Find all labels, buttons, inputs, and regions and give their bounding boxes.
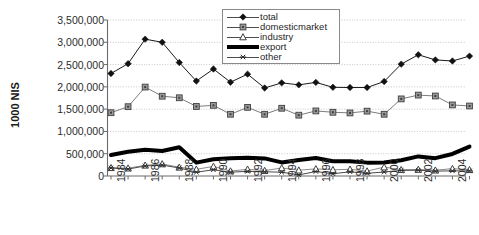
data-point-marker-square-center [178,97,180,99]
data-point-marker-square-center [110,112,112,114]
data-point-marker-diamond [279,80,285,86]
legend-key-thickline-icon [226,42,260,52]
data-point-marker-square-center [298,114,300,116]
data-point-marker-diamond [296,82,302,88]
series-other [108,163,473,177]
series-line-export [111,147,470,163]
legend-marker-asterisk-icon [236,52,250,62]
data-point-marker-diamond [449,58,455,64]
legend-key-diamond-icon [226,12,260,22]
data-point-marker-diamond [364,84,370,90]
data-point-marker-diamond [108,70,114,76]
data-point-marker-diamond [415,52,421,58]
data-point-marker-square-center [451,104,453,106]
data-point-marker-square-center [144,86,146,88]
legend-marker-square-icon [236,22,250,32]
legend-marker-diamond-icon [236,12,250,22]
data-point-marker-diamond [330,84,336,90]
series-line-domesticmarket [111,87,470,115]
series-export [111,147,470,163]
chart-screenshot: 1000 NIS 3,500,0003,000,0002,500,0002,00… [0,0,479,235]
series-domesticmarket [108,84,472,118]
data-point-marker-square-center [332,111,334,113]
data-point-marker-square-center [417,94,419,96]
data-point-marker-diamond [125,60,131,66]
data-point-marker-triangle [278,165,285,171]
data-point-marker-diamond [432,57,438,63]
data-point-marker-square-center [161,95,163,97]
data-point-marker-square-center [349,112,351,114]
legend-label: other [260,52,282,62]
data-point-marker-diamond [347,84,353,90]
legend-item-other: other [226,52,336,62]
data-point-marker-square-center [434,95,436,97]
data-point-marker-square-center [315,110,317,112]
data-point-marker-diamond [313,79,319,85]
data-point-marker-square-center [127,106,129,108]
data-point-marker-diamond [142,36,148,42]
data-point-marker-diamond [466,53,472,59]
data-point-marker-square-center [195,105,197,107]
data-point-marker-square-center [264,113,266,115]
chart-legend: totaldomesticmarketindustryexportother [222,9,340,64]
data-point-marker-square-center [469,105,471,107]
legend-key-asterisk-icon [226,52,260,62]
data-point-marker-triangle [240,34,247,40]
data-point-marker-diamond [240,14,246,20]
data-point-marker-square-center [400,98,402,100]
legend-key-square-icon [226,22,260,32]
data-point-marker-square-center [230,113,232,115]
data-point-marker-square-center [281,107,283,109]
data-point-marker-square-center [383,113,385,115]
data-point-marker-square-center [366,110,368,112]
legend-key-triangle-icon [226,32,260,42]
data-point-marker-square-center [247,106,249,108]
data-point-marker-triangle [381,164,388,170]
legend-marker-triangle-icon [236,32,250,42]
data-point-marker-square-center [212,104,214,106]
data-point-marker-triangle [210,163,217,169]
data-point-marker-square-center [242,26,244,28]
